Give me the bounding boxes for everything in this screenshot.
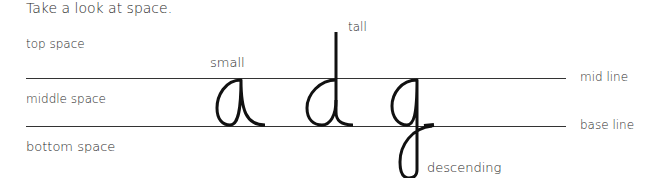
letter-g-glyph bbox=[392, 80, 434, 178]
letter-glyphs bbox=[0, 0, 649, 178]
letter-d-glyph bbox=[307, 32, 353, 125]
letter-a-glyph bbox=[217, 80, 265, 125]
